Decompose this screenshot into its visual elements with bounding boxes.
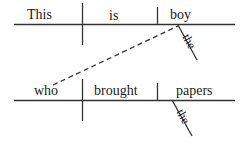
word-verb-is: is (109, 9, 118, 23)
word-predicate-nominative-boy: boy (170, 8, 191, 22)
word-direct-object-papers: papers (176, 84, 213, 98)
word-subject-this: This (27, 8, 52, 22)
sentence-diagram: This is boy the who brought papers the (0, 0, 251, 142)
word-verb-brought: brought (94, 84, 138, 98)
relative-clause-dashed-connector (53, 26, 178, 85)
word-relative-pronoun-who: who (34, 84, 58, 98)
